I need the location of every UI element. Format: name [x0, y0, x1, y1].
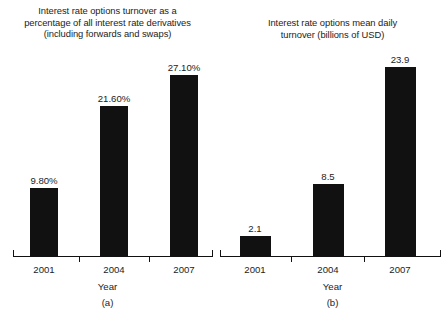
panel-a-axis-endcap-left [13, 250, 14, 257]
panel-b-x-tick-2 [364, 256, 365, 262]
chart-panel-b: Interest rate options mean daily turnove… [219, 0, 446, 316]
figure-container: Interest rate options turnover as a perc… [0, 0, 446, 316]
bar-value-b-2001: 2.1 [225, 223, 285, 234]
panel-a-x-tick-1 [79, 256, 80, 262]
panel-a-caption: (a) [0, 297, 215, 308]
bar-a-2007[interactable] [170, 75, 198, 256]
panel-a-x-tick-2 [149, 256, 150, 262]
x-tick-label-b-2004: 2004 [298, 264, 358, 275]
panel-b-x-axis [220, 256, 441, 257]
panel-b-x-tick-1 [291, 256, 292, 262]
x-tick-label-a-2004: 2004 [84, 264, 144, 275]
panel-b-plot-area: 2.1 8.5 23.9 2001 2004 2007 Year (b) [219, 0, 446, 316]
panel-a-plot-area: 9.80% 21.60% 27.10% 2001 2004 2007 Year … [0, 0, 215, 316]
bar-b-2007[interactable] [385, 67, 416, 256]
x-tick-label-b-2001: 2001 [225, 264, 285, 275]
panel-b-caption: (b) [219, 297, 446, 308]
bar-b-2001[interactable] [240, 236, 271, 256]
bar-b-2004[interactable] [313, 184, 344, 256]
panel-b-axis-endcap-right [440, 250, 441, 257]
chart-panel-a: Interest rate options turnover as a perc… [0, 0, 215, 316]
panel-b-axis-endcap-left [220, 250, 221, 257]
panel-a-x-axis-title: Year [0, 281, 215, 292]
bar-value-b-2007: 23.9 [370, 54, 430, 65]
panel-a-axis-endcap-right [212, 250, 213, 257]
x-tick-label-a-2007: 2007 [154, 264, 214, 275]
bar-value-a-2004: 21.60% [84, 93, 144, 104]
panel-b-x-axis-title: Year [219, 281, 446, 292]
panel-a-x-axis [13, 256, 213, 257]
bar-value-b-2004: 8.5 [298, 171, 358, 182]
x-tick-label-a-2001: 2001 [14, 264, 74, 275]
bar-value-a-2007: 27.10% [154, 62, 214, 73]
x-tick-label-b-2007: 2007 [370, 264, 430, 275]
bar-a-2004[interactable] [100, 106, 128, 256]
bar-a-2001[interactable] [30, 188, 58, 256]
bar-value-a-2001: 9.80% [14, 175, 74, 186]
